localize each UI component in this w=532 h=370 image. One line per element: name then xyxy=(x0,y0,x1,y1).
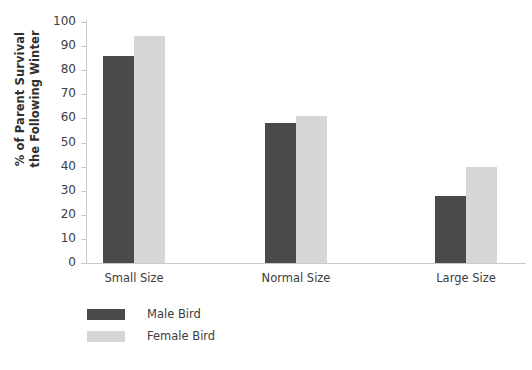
y-axis-tick-label: 20 xyxy=(61,206,76,223)
plot-area xyxy=(86,22,526,263)
y-axis-tick: 10 xyxy=(0,239,86,240)
bar xyxy=(103,56,134,263)
bar xyxy=(435,196,466,263)
y-axis-tick-label: 60 xyxy=(61,109,76,126)
y-axis-title-line-2: the Following Winter xyxy=(28,30,43,167)
y-axis-tick: 90 xyxy=(0,46,86,47)
y-axis-tick-label: 30 xyxy=(61,182,76,199)
x-axis-line xyxy=(86,263,526,264)
legend-item: Male Bird xyxy=(87,303,215,325)
y-axis-tick-label: 80 xyxy=(61,61,76,78)
bar-chart: % of Parent Survival the Following Winte… xyxy=(0,0,532,370)
y-axis-tick: 70 xyxy=(0,94,86,95)
y-axis-tick-label: 50 xyxy=(61,134,76,151)
y-axis-tick-label: 100 xyxy=(53,13,76,30)
legend-label: Male Bird xyxy=(147,306,201,322)
y-axis-tick-mark xyxy=(81,263,86,264)
y-axis-tick-label: 10 xyxy=(61,230,76,247)
y-axis-tick-label: 90 xyxy=(61,37,76,54)
x-axis-label: Normal Size xyxy=(262,270,331,286)
y-axis-tick-label: 70 xyxy=(61,85,76,102)
y-axis-tick: 0 xyxy=(0,263,86,264)
legend-swatch xyxy=(87,309,125,320)
y-axis-tick-label: 40 xyxy=(61,158,76,175)
legend-item: Female Bird xyxy=(87,325,215,347)
y-axis-title-line-1: % of Parent Survival xyxy=(13,32,28,166)
bar xyxy=(296,116,327,263)
y-axis-tick: 50 xyxy=(0,143,86,144)
bar xyxy=(265,123,296,263)
y-axis-tick: 20 xyxy=(0,215,86,216)
y-axis-tick: 40 xyxy=(0,167,86,168)
y-axis-tick: 30 xyxy=(0,191,86,192)
y-axis-title: % of Parent Survival the Following Winte… xyxy=(7,0,49,199)
y-axis-tick: 100 xyxy=(0,22,86,23)
chart-legend: Male BirdFemale Bird xyxy=(87,303,215,347)
x-axis-label: Large Size xyxy=(436,270,496,286)
x-axis-label: Small Size xyxy=(104,270,163,286)
legend-swatch xyxy=(87,331,125,342)
y-axis-tick-label: 0 xyxy=(68,254,76,271)
y-axis-tick: 60 xyxy=(0,118,86,119)
legend-label: Female Bird xyxy=(147,328,215,344)
y-axis-tick: 80 xyxy=(0,70,86,71)
bar xyxy=(466,167,497,263)
bar xyxy=(134,36,165,263)
